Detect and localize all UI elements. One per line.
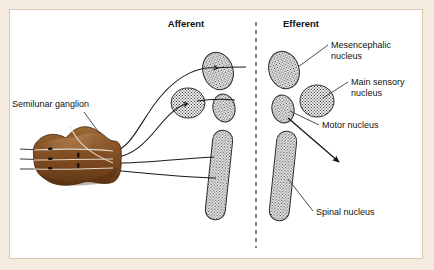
ganglion-node-5 (77, 163, 79, 168)
label-motor-nucleus: Motor nucleus (322, 120, 379, 130)
nucleus-afferent-small (210, 92, 237, 124)
leader-spinal-nucleus (288, 179, 313, 211)
label-semilunar-ganglion: Semilunar ganglion (12, 99, 89, 109)
nucleus-afferent-mesencephalic (198, 48, 238, 93)
heading-efferent: Efferent (283, 18, 320, 29)
heading-afferent: Afferent (168, 18, 205, 29)
figure-root: Afferent Efferent (0, 0, 434, 270)
nucleus-afferent-main-sensory (171, 88, 205, 118)
efferent-nuclei-group (264, 47, 334, 222)
ganglion-node-3 (48, 167, 53, 169)
label-main-sensory-nucleus-line2: nucleus (351, 88, 383, 98)
ganglion-node-4 (77, 153, 79, 158)
nucleus-efferent-main-sensory (300, 85, 334, 117)
nucleus-efferent-motor (269, 93, 296, 125)
trigeminal-nuclei-diagram: Afferent Efferent (0, 0, 434, 270)
ganglion-node-2 (48, 158, 53, 160)
label-main-sensory-nucleus-line1: Main sensory (351, 77, 405, 87)
nucleus-efferent-mesencephalic (264, 47, 304, 92)
ganglion-node-1 (48, 148, 53, 150)
label-mesencephalic-nucleus-line2: nucleus (331, 51, 363, 61)
nucleus-afferent-spinal (204, 129, 233, 221)
fiber-to-spinal-lower (112, 170, 216, 178)
label-spinal-nucleus: Spinal nucleus (316, 207, 375, 217)
fiber-to-spinal-upper (112, 157, 214, 163)
label-mesencephalic-nucleus-line1: Mesencephalic (331, 40, 392, 50)
afferent-nuclei-group (171, 48, 238, 221)
leader-mesencephalic-nucleus (298, 45, 328, 67)
nucleus-efferent-spinal (268, 130, 297, 222)
semilunar-ganglion-body (33, 126, 121, 186)
